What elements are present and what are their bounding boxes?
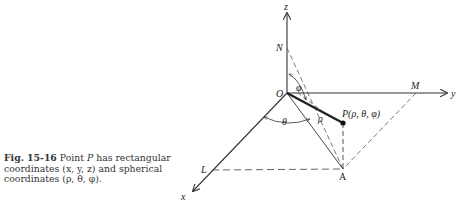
dashed-L-to-A [212, 169, 343, 170]
rho-vector-OP [287, 93, 343, 123]
point-L-label: L [200, 164, 207, 175]
dashed-M-to-A [343, 93, 416, 169]
projection-OA [287, 93, 343, 169]
spherical-coordinates-diagram: z y x O N M L A P(ρ, θ, φ) φ θ ρ [0, 0, 464, 214]
origin-label: O [276, 88, 283, 99]
point-P [340, 120, 345, 125]
point-A-label: A [339, 171, 347, 182]
theta-label: θ [282, 116, 287, 127]
x-axis-label: x [180, 191, 186, 202]
point-N-label: N [275, 42, 284, 53]
point-M-label: M [410, 80, 420, 91]
phi-label: φ [296, 82, 302, 93]
z-axis-label: z [283, 1, 288, 12]
rho-label: ρ [317, 113, 323, 124]
point-P-label: P(ρ, θ, φ) [341, 108, 381, 120]
theta-arc [264, 117, 310, 123]
x-axis [193, 93, 287, 191]
y-axis-label: y [450, 88, 456, 99]
